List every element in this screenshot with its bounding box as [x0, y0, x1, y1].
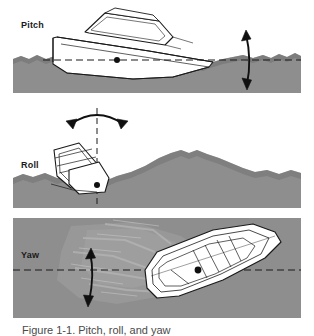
- pitch-illustration: [13, 4, 301, 93]
- boat-side-profile: [53, 8, 213, 79]
- yaw-illustration: [13, 218, 301, 318]
- label-pitch: Pitch: [21, 20, 44, 30]
- roll-illustration: [13, 100, 301, 208]
- figure-caption: Figure 1-1. Pitch, roll, and yaw: [22, 324, 302, 336]
- label-roll: Roll: [21, 160, 39, 170]
- center-of-gravity-dot-pitch: [114, 57, 120, 63]
- center-of-gravity-dot-roll: [94, 182, 100, 188]
- label-yaw: Yaw: [21, 250, 39, 260]
- panel-yaw: [13, 218, 301, 318]
- center-of-gravity-dot-yaw: [195, 267, 202, 274]
- panel-pitch: [13, 4, 301, 93]
- boat-stern-view: [51, 143, 109, 194]
- panel-roll: [13, 100, 301, 208]
